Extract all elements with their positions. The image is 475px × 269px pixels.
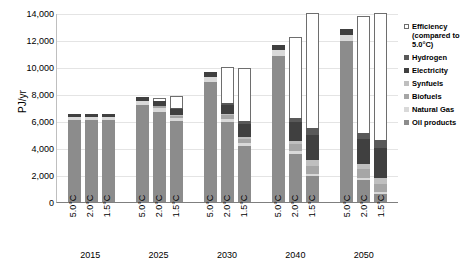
legend-swatch-icon [404, 81, 409, 86]
x-axis-scenario-tick: 5.0°C [203, 204, 216, 248]
x-axis-year-label: 2030 [193, 250, 261, 260]
stacked-bar[interactable] [289, 37, 302, 202]
legend-item-label: Electricity [412, 66, 448, 75]
legend-item[interactable]: Hydrogen [404, 53, 475, 62]
legend-item[interactable]: Biofuels [404, 92, 475, 101]
x-axis-scenario-label: 1.5°C [239, 195, 249, 218]
bar-segment[interactable] [289, 144, 302, 151]
bar-segment[interactable] [68, 120, 81, 202]
x-axis-scenario-tick: 2.0°C [152, 204, 165, 248]
stacked-bar[interactable] [238, 68, 251, 202]
bar-segment[interactable] [357, 139, 370, 164]
x-axis-scenario-label: 2.0°C [85, 195, 95, 218]
x-axis-scenario-label: 1.5°C [102, 195, 112, 218]
bar-segment[interactable] [340, 35, 353, 42]
x-axis-scenario-tick: 1.5°C [306, 204, 319, 248]
stacked-bar[interactable] [357, 16, 370, 202]
bar-segment[interactable] [221, 105, 234, 114]
x-axis-scenario-label: 1.5°C [307, 195, 317, 218]
legend-swatch-icon [404, 55, 409, 60]
bar-segment[interactable] [340, 41, 353, 202]
bar-segment[interactable] [204, 82, 217, 202]
x-axis-scenario-label: 2.0°C [154, 195, 164, 218]
stacked-bar[interactable] [374, 13, 387, 202]
y-axis-tick-label: 12,000 [8, 37, 54, 46]
legend-item[interactable]: Electricity [404, 66, 475, 75]
x-axis-scenario-label: 5.0°C [342, 195, 352, 218]
y-axis-tick-label: 2,000 [8, 172, 54, 181]
x-axis-scenario-label: 2.0°C [359, 195, 369, 218]
x-axis-year-label: 2015 [56, 250, 124, 260]
bar-segment[interactable] [374, 184, 387, 192]
y-axis-tick-labels: 02,0004,0006,0008,00010,00012,00014,000 [0, 0, 54, 269]
stacked-bar[interactable] [170, 96, 183, 202]
bar-segment[interactable] [306, 135, 319, 160]
bar-segment[interactable] [306, 166, 319, 174]
x-axis-scenario-label: 1.5°C [171, 195, 181, 218]
stacked-bar[interactable] [68, 114, 81, 202]
plot-area [56, 14, 398, 203]
bar-segment[interactable] [221, 67, 234, 103]
bar-segment[interactable] [238, 68, 251, 121]
bar-segment[interactable] [357, 16, 370, 133]
bar-group [193, 14, 261, 202]
x-axis-scenario-label: 5.0°C [68, 195, 78, 218]
stacked-bar[interactable] [221, 67, 234, 202]
stacked-bar[interactable] [306, 13, 319, 202]
stacked-bar[interactable] [272, 45, 285, 202]
x-axis-scenario-tick: 5.0°C [67, 204, 80, 248]
x-axis-year-label: 2050 [330, 250, 398, 260]
bar-segment[interactable] [85, 120, 98, 202]
bar-segment[interactable] [153, 112, 166, 202]
bar-segment[interactable] [306, 128, 319, 135]
bar-segment[interactable] [170, 96, 183, 107]
legend-item[interactable]: Natural Gas [404, 105, 475, 114]
bar-segment[interactable] [102, 120, 115, 202]
bar-series-container [57, 14, 398, 202]
x-axis-scenario-tick: 1.5°C [101, 204, 114, 248]
bar-group [125, 14, 193, 202]
stacked-bar[interactable] [136, 97, 149, 202]
legend-swatch-icon [404, 107, 409, 112]
x-axis-scenario-tick: 1.5°C [374, 204, 387, 248]
bar-segment[interactable] [374, 140, 387, 148]
legend-item-label: Oil products [412, 118, 456, 127]
legend-item[interactable]: Oil products [404, 118, 475, 127]
y-axis-tick-label: 6,000 [8, 118, 54, 127]
x-axis-scenario-tick: 2.0°C [220, 204, 233, 248]
legend-swatch-icon [404, 94, 409, 99]
bar-segment[interactable] [170, 121, 183, 202]
legend-item[interactable]: Efficiency (compared to 5.0°C) [404, 22, 475, 49]
stacked-bar[interactable] [153, 98, 166, 202]
x-axis-scenario-tick: 1.5°C [237, 204, 250, 248]
stacked-bar[interactable] [85, 114, 98, 202]
stacked-bar[interactable] [204, 72, 217, 202]
legend-item-label: Biofuels [412, 92, 442, 101]
legend-item[interactable]: Synfuels [404, 79, 475, 88]
x-axis-scenario-tick: 5.0°C [135, 204, 148, 248]
bar-segment[interactable] [272, 56, 285, 202]
stacked-bar[interactable] [102, 114, 115, 202]
x-axis-group: 5.0°C2.0°C1.5°C2025 [124, 204, 192, 266]
stacked-bar[interactable] [340, 29, 353, 202]
bar-segment[interactable] [306, 13, 319, 128]
bar-segment[interactable] [136, 105, 149, 202]
bar-segment[interactable] [374, 13, 387, 140]
y-axis-tick-label: 4,000 [8, 145, 54, 154]
legend-item-label: Synfuels [412, 79, 443, 88]
y-axis-tick-label: 10,000 [8, 64, 54, 73]
bar-group [330, 14, 398, 202]
x-axis-scenario-label: 5.0°C [137, 195, 147, 218]
x-axis-year-label: 2040 [261, 250, 329, 260]
bar-segment[interactable] [221, 122, 234, 202]
bar-segment[interactable] [289, 37, 302, 118]
x-axis-scenario-label: 1.5°C [376, 195, 386, 218]
x-axis-scenario-label: 5.0°C [273, 195, 283, 218]
bar-segment[interactable] [357, 169, 370, 178]
bar-segment[interactable] [238, 124, 251, 136]
bar-segment[interactable] [289, 122, 302, 140]
bar-segment[interactable] [374, 148, 387, 178]
x-axis-scenario-tick: 5.0°C [340, 204, 353, 248]
legend-item-label: Hydrogen [412, 53, 447, 62]
x-axis-group: 5.0°C2.0°C1.5°C2030 [193, 204, 261, 266]
